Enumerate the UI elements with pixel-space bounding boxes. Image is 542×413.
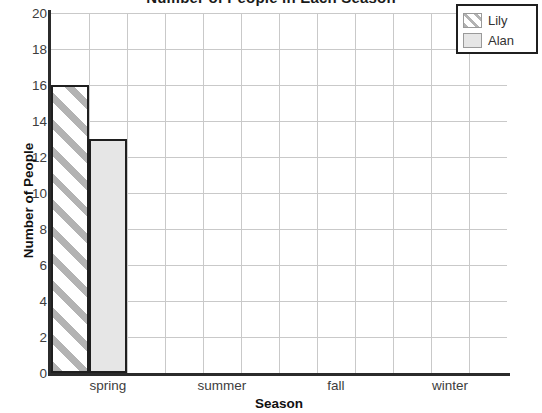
gridline-vertical — [393, 13, 394, 373]
bar-lily-spring[interactable] — [51, 85, 89, 373]
gridline-vertical — [431, 13, 432, 373]
gridline-vertical — [203, 13, 204, 373]
y-tick-label: 2 — [3, 330, 47, 345]
chart-legend: LilyAlan — [456, 4, 538, 54]
legend-item-lily[interactable]: Lily — [463, 10, 531, 30]
bar-alan-spring[interactable] — [89, 139, 127, 373]
legend-swatch-striped-icon — [463, 13, 482, 28]
bar-chart: Number of People in Each Season 02468101… — [0, 0, 542, 413]
y-tick-label: 20 — [3, 6, 47, 21]
x-axis-title: Season — [51, 396, 507, 411]
x-tick-label-fall: fall — [276, 378, 396, 393]
gridline-vertical — [279, 13, 280, 373]
gridline-vertical — [355, 13, 356, 373]
x-axis-line — [48, 373, 510, 376]
gridline-vertical — [317, 13, 318, 373]
y-axis-title: Number of People — [21, 121, 36, 281]
legend-label: Lily — [488, 13, 508, 28]
legend-item-alan[interactable]: Alan — [463, 30, 531, 50]
x-tick-label-summer: summer — [162, 378, 282, 393]
y-tick-label: 4 — [3, 294, 47, 309]
x-tick-label-spring: spring — [48, 378, 168, 393]
gridline-vertical — [469, 13, 470, 373]
gridline-vertical — [165, 13, 166, 373]
y-tick-label: 16 — [3, 78, 47, 93]
y-tick-label: 18 — [3, 42, 47, 57]
plot-area — [51, 13, 507, 373]
legend-label: Alan — [488, 33, 514, 48]
y-tick-label: 0 — [3, 366, 47, 381]
gridline-vertical — [127, 13, 128, 373]
x-tick-label-winter: winter — [390, 378, 510, 393]
legend-swatch-solid-icon — [463, 33, 482, 48]
gridline-vertical — [241, 13, 242, 373]
